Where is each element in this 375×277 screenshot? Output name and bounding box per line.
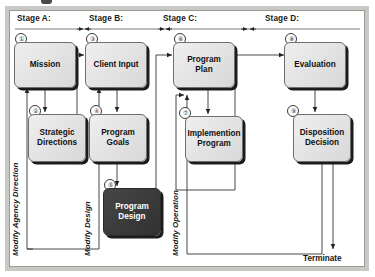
node-evaluation-label: Evaluation [292,60,337,70]
node-program-design-label: Program Design [113,202,151,221]
node-mission-label: Mission [28,60,62,70]
stage-label-c: Stage C: [163,14,197,23]
node-program-goals-label: Program Goals [99,128,137,147]
node-mission[interactable]: Mission [14,42,76,88]
node-program-plan[interactable]: Program Plan [173,42,235,88]
feedback-label-modify-agency-direction: Modify Agency Direction [11,163,20,257]
node-implemention-program-label: Implemention Program [185,129,242,148]
node-program-design[interactable]: Program Design [103,188,161,236]
node-strategic-directions-label: Strategic Directions [35,128,79,147]
node-disposition-decision[interactable]: Disposition Decision [293,114,351,162]
node-disposition-decision-label: Disposition Decision [298,128,347,147]
node-strategic-directions[interactable]: Strategic Directions [28,114,86,162]
stage-label-d: Stage D: [265,14,299,23]
node-evaluation[interactable]: Evaluation [284,42,346,88]
node-client-input[interactable]: Client Input [85,42,147,88]
feedback-label-modify-operation: Modify Operation [171,190,180,256]
node-implemention-program[interactable]: Implemention Program [185,116,243,162]
stage-label-a: Stage A: [17,14,51,23]
node-client-input-label: Client Input [91,60,140,70]
feedback-label-modify-design: Modify Design [83,201,92,256]
node-program-goals[interactable]: Program Goals [89,114,147,162]
node-program-plan-label: Program Plan [185,55,223,74]
terminate-label: Terminate [303,254,342,263]
flow-diagram-figure: Stage A: Stage B: Stage C: Stage D: ① Mi… [0,0,375,277]
stage-label-b: Stage B: [89,14,123,23]
